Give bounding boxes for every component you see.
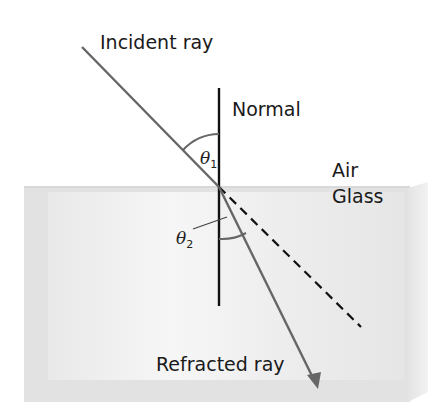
theta2-label: θ2: [176, 230, 193, 250]
normal-label: Normal: [232, 100, 301, 119]
incident-ray-label: Incident ray: [100, 33, 213, 52]
glass-label: Glass: [332, 187, 383, 206]
refracted-ray-label: Refracted ray: [156, 355, 285, 374]
incident-ray-line: [82, 47, 219, 187]
theta1-label: θ1: [200, 150, 217, 170]
air-label: Air: [332, 161, 358, 180]
